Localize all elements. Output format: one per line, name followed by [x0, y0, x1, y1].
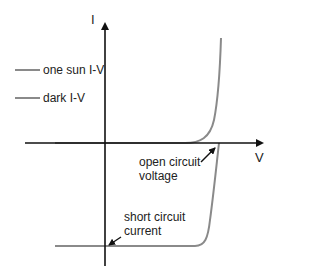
isc-label-line1: short circuit: [124, 210, 185, 224]
isc-annotation: short circuit current: [124, 210, 185, 238]
voc-label-line2: voltage: [139, 169, 200, 183]
voc-label-line1: open circuit: [139, 155, 200, 169]
x-axis-label: V: [255, 150, 264, 165]
voc-arrow: [201, 148, 215, 162]
legend-dark-label: dark I-V: [43, 91, 85, 105]
isc-label-line2: current: [124, 224, 185, 238]
voc-annotation: open circuit voltage: [139, 155, 200, 183]
y-axis-label: I: [91, 12, 95, 27]
isc-arrow: [109, 237, 121, 245]
legend-one-sun-label: one sun I-V: [43, 63, 104, 77]
